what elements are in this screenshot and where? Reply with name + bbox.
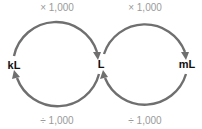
unit-label-ml: mL <box>179 58 196 70</box>
arrowhead-into-kl-bottom <box>12 70 20 79</box>
arc-kl-to-l <box>14 22 97 56</box>
unit-label-kl: kL <box>8 59 21 71</box>
arc-l-to-ml <box>104 24 185 54</box>
arc-l-to-kl <box>17 74 99 106</box>
op-label-top-left: × 1,000 <box>40 2 74 13</box>
op-label-top-right: × 1,000 <box>128 2 162 13</box>
unit-label-l: L <box>98 58 105 70</box>
conversion-diagram: kL L mL × 1,000 × 1,000 ÷ 1,000 ÷ 1,000 <box>0 0 202 129</box>
op-label-bottom-right: ÷ 1,000 <box>128 115 162 126</box>
op-label-bottom-left: ÷ 1,000 <box>40 115 74 126</box>
arrowhead-into-l-bottom <box>100 70 108 79</box>
arc-ml-to-l <box>105 74 186 105</box>
